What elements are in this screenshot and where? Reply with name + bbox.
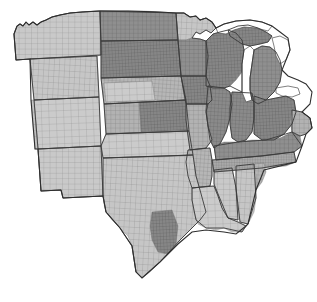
state-area-north-dakota bbox=[100, 11, 178, 41]
state-area-south-dakota bbox=[101, 40, 181, 78]
state-area-wyoming bbox=[30, 56, 99, 100]
map-figure bbox=[0, 0, 317, 302]
state-area-colorado bbox=[34, 97, 101, 149]
county-choropleth-map bbox=[0, 0, 317, 302]
county-group-nebraska-light bbox=[104, 81, 155, 102]
county-group-kansas-dark bbox=[139, 100, 188, 132]
state-area-oklahoma bbox=[101, 131, 193, 158]
county-group-minnesota-south-dark bbox=[178, 38, 208, 76]
